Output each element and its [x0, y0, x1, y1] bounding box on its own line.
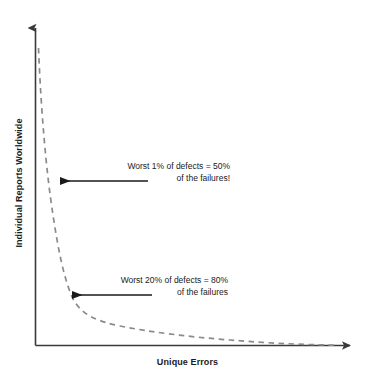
- x-axis-title: Unique Errors: [0, 357, 375, 367]
- annotation-2-line-1: Worst 20% of defects = 80%: [104, 275, 228, 287]
- pareto-chart: Worst 1% of defects = 50% of the failure…: [0, 0, 375, 388]
- annotation-2-line-2: of the failures: [104, 287, 228, 299]
- annotation-1-line-2: of the failures!: [108, 173, 230, 185]
- chart-canvas: [0, 0, 375, 388]
- pareto-curve: [39, 48, 339, 345]
- y-axis-title: Individual Reports Worldwide: [14, 83, 24, 283]
- annotation-worst-20-percent: Worst 20% of defects = 80% of the failur…: [104, 275, 228, 298]
- annotation-1-line-1: Worst 1% of defects = 50%: [108, 161, 230, 173]
- annotation-worst-1-percent: Worst 1% of defects = 50% of the failure…: [108, 161, 230, 184]
